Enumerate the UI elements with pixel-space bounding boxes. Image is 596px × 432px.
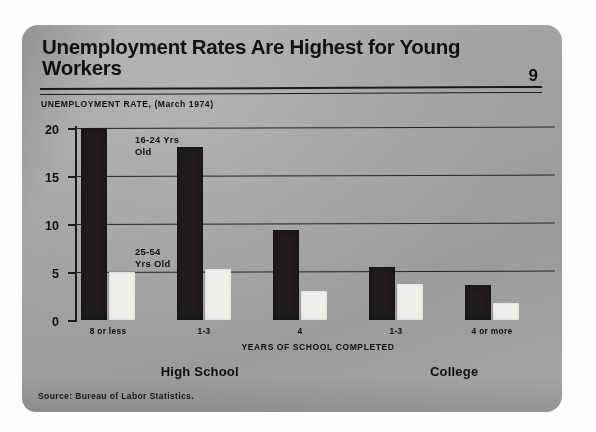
y-axis-tick: 0 (68, 320, 75, 322)
group-label: College (430, 364, 478, 379)
gridline (75, 174, 555, 177)
x-tick-label: 1-3 (389, 326, 402, 336)
bar-young (273, 230, 299, 320)
y-tick-label: 15 (45, 171, 59, 185)
plot-area: 05101520 16-24 Yrs Old 25-54 Yrs Old 8 o… (75, 128, 555, 320)
bar-prime (301, 291, 327, 320)
x-tick-label: 1-3 (197, 326, 210, 336)
y-axis-tick: 15 (68, 176, 75, 178)
x-tick-label: 4 or more (472, 326, 513, 336)
page-title: Unemployment Rates Are Highest for Young… (42, 36, 462, 78)
page-number: 9 (529, 66, 538, 86)
y-axis-tick: 5 (68, 272, 75, 274)
y-tick-label: 5 (52, 267, 59, 281)
x-tick-label: 8 or less (90, 326, 127, 336)
legend-label-young: 16-24 Yrs Old (135, 134, 179, 157)
bar-prime (493, 303, 519, 320)
chart-card: Unemployment Rates Are Highest for Young… (22, 25, 562, 412)
x-axis-title: YEARS OF SCHOOL COMPLETED (242, 342, 395, 352)
gridline (75, 126, 555, 129)
title-rule (40, 86, 542, 95)
x-tick-label: 4 (298, 326, 303, 336)
bar-prime (109, 272, 135, 320)
y-axis-tick: 10 (68, 224, 75, 226)
gridline (75, 270, 555, 273)
source-note: Source: Bureau of Labor Statistics. (38, 391, 194, 401)
y-tick-label: 20 (45, 123, 59, 137)
gridline (75, 222, 555, 225)
group-label: High School (161, 364, 239, 379)
legend-label-prime: 25-54 Yrs Old (135, 246, 170, 269)
bar-young (369, 267, 395, 320)
bar-young (81, 128, 107, 320)
y-axis-tick: 20 (68, 128, 75, 130)
chart-subtitle: UNEMPLOYMENT RATE, (March 1974) (41, 99, 214, 109)
bar-prime (205, 269, 231, 320)
y-tick-label: 0 (52, 315, 59, 329)
y-tick-label: 10 (45, 219, 59, 233)
bar-young (177, 147, 203, 320)
bar-prime (397, 284, 423, 320)
scanned-page: Unemployment Rates Are Highest for Young… (0, 0, 596, 432)
bar-young (465, 285, 491, 320)
